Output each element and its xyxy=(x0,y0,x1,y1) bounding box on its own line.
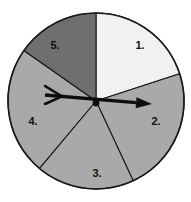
spinner-wheel-figure: 1.2.3.4.5. xyxy=(0,0,191,202)
sector-label-3: 3. xyxy=(92,167,101,179)
sector-label-5: 5. xyxy=(50,39,59,51)
sector-label-1: 1. xyxy=(135,39,144,51)
spinner-wheel-svg[interactable]: 1.2.3.4.5. xyxy=(0,0,191,202)
spinner-pivot-dot xyxy=(93,100,100,107)
sector-label-2: 2. xyxy=(151,115,160,127)
sector-label-4: 4. xyxy=(28,115,37,127)
